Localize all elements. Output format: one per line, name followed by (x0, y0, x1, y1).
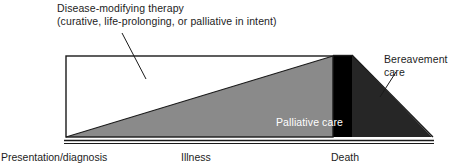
axis-label-death: Death (331, 151, 359, 163)
bereavement-annotation-line2: care (384, 66, 405, 78)
therapy-annotation-line1: Disease-modifying therapy (57, 2, 184, 14)
bereavement-annotation-line1: Bereavement (384, 53, 448, 65)
therapy-annotation-line2: (curative, life-prolonging, or palliativ… (57, 15, 277, 27)
bereavement-care-annotation: Bereavementcare (384, 53, 448, 78)
axis-label-presentation-diagnosis: Presentation/diagnosis (1, 151, 107, 163)
disease-modifying-therapy-annotation: Disease-modifying therapy(curative, life… (57, 2, 277, 28)
palliative-care-label: Palliative care (276, 116, 343, 129)
axis-label-illness: Illness (181, 151, 211, 163)
